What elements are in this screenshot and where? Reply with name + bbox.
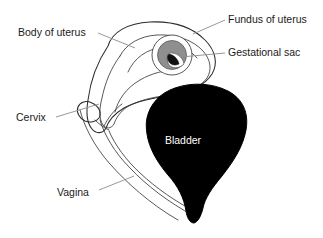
label-body-of-uterus: Body of uterus [18,26,86,38]
label-gestational-sac: Gestational sac [228,46,300,58]
leader-cervix [56,104,99,117]
label-vagina: Vagina [57,186,89,198]
label-bladder: Bladder [165,134,202,146]
label-cervix: Cervix [16,111,47,123]
diagram-canvas: Body of uterus Fundus of uterus Gestatio… [0,0,323,238]
bladder [146,84,247,223]
leader-fundus-of-uterus [193,20,225,34]
bladder-group [146,84,247,223]
anatomy-diagram: Body of uterus Fundus of uterus Gestatio… [0,0,323,238]
leader-body-of-uterus [98,33,135,48]
gestational-sac-group [152,35,192,75]
label-fundus-of-uterus: Fundus of uterus [228,13,307,25]
lower-uterine-segment-line [104,104,122,126]
